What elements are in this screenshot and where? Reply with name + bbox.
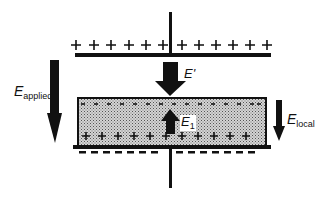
e1-label: E1 (180, 115, 196, 131)
bottom-plate-minus-charges (79, 151, 255, 154)
e-applied-label: Eapplied (14, 84, 52, 101)
e-prime-arrow (155, 62, 186, 96)
capacitor-diagram: Eapplied E' E1 Elocal (0, 0, 325, 197)
top-wire (169, 12, 172, 55)
bottom-wire (169, 147, 172, 188)
e-local-arrow (273, 100, 285, 141)
e-local-label: Elocal (287, 112, 315, 129)
top-plate (75, 53, 271, 57)
e-applied-arrow (47, 60, 62, 143)
e-prime-label: E' (184, 67, 195, 80)
